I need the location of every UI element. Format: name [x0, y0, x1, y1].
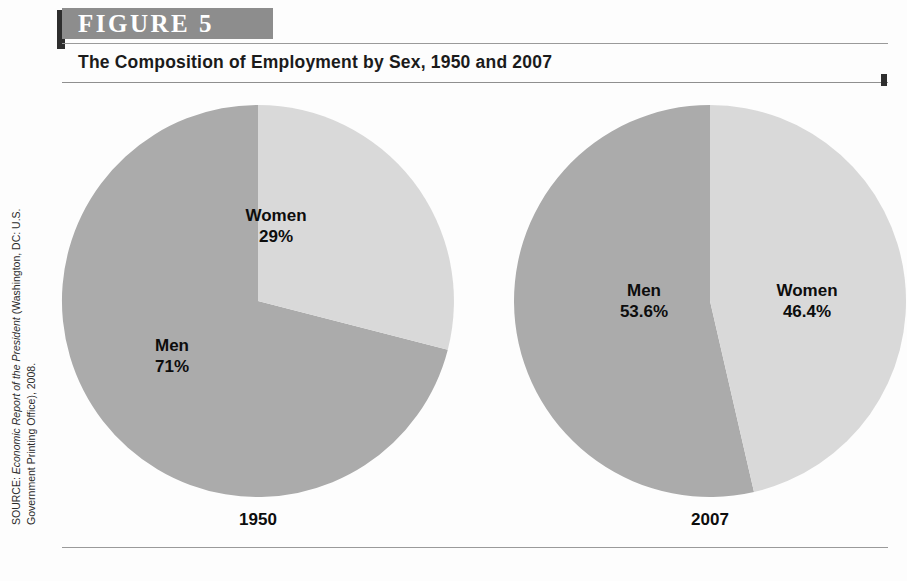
slice-label-men-1950: Men 71% — [112, 335, 232, 377]
slice-label-men-2007-name: Men — [584, 280, 704, 301]
slice-label-women-1950: Women 29% — [216, 205, 336, 247]
source-prefix: SOURCE: — [10, 474, 22, 525]
year-label-2007: 2007 — [630, 510, 790, 530]
source-note-line-1: SOURCE: Economic Report of the President… — [9, 105, 24, 525]
header-rule-bottom — [62, 82, 888, 83]
slice-label-women-2007-name: Women — [742, 280, 872, 301]
header-rule-top — [62, 43, 888, 44]
figure-title: The Composition of Employment by Sex, 19… — [78, 52, 552, 73]
slice-label-men-2007: Men 53.6% — [584, 280, 704, 322]
pie-chart-1950 — [60, 103, 456, 499]
header-end-tick — [881, 74, 887, 86]
source-suffix: (Washington, DC: U.S. — [10, 209, 22, 318]
source-note: SOURCE: Economic Report of the President… — [9, 105, 39, 525]
slice-label-men-1950-value: 71% — [112, 356, 232, 377]
footer-rule — [62, 547, 888, 548]
source-title-italic: Economic Report of the President — [10, 317, 22, 474]
slice-label-women-1950-value: 29% — [216, 226, 336, 247]
slice-label-women-2007-value: 46.4% — [742, 301, 872, 322]
figure-number-label: FIGURE 5 — [78, 11, 214, 37]
slice-label-women-1950-name: Women — [216, 205, 336, 226]
slice-label-men-2007-value: 53.6% — [584, 301, 704, 322]
pie-svg-1950 — [60, 103, 456, 499]
figure-page: FIGURE 5 The Composition of Employment b… — [0, 0, 907, 581]
source-note-line-2: Government Printing Office), 2008. — [24, 105, 39, 525]
slice-label-men-1950-name: Men — [112, 335, 232, 356]
year-label-1950: 1950 — [178, 510, 338, 530]
slice-label-women-2007: Women 46.4% — [742, 280, 872, 322]
